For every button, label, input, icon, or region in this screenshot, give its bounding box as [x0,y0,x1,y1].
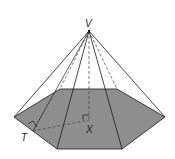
label-v: V [85,18,93,29]
label-x: X [85,124,93,135]
apex-point [88,30,90,32]
pyramid-diagram: V X T [0,0,175,159]
hexagon-base [14,89,165,149]
label-t: T [21,132,28,143]
